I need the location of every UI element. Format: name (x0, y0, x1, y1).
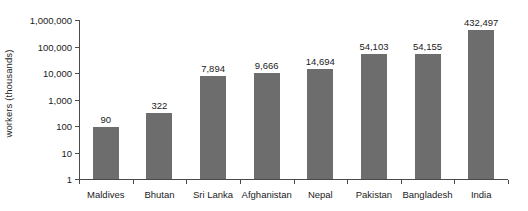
bar (361, 54, 387, 179)
y-axis-title: workers (thousands) (0, 0, 18, 186)
category-label: Maldives (87, 189, 125, 200)
category-label: Afghanistan (242, 189, 292, 200)
category-label: Sri Lanka (193, 189, 233, 200)
y-tick-label: 100 (56, 121, 72, 132)
y-tick-mark (75, 73, 79, 74)
bar-value-label: 54,103 (359, 41, 388, 52)
bar-value-label: 432,497 (464, 17, 498, 28)
plot-area: 1101001,00010,000100,0001,000,000 903227… (79, 20, 508, 180)
bar-value-label: 7,894 (201, 63, 225, 74)
bar (200, 76, 226, 179)
y-tick-label: 10,000 (43, 68, 72, 79)
y-tick-mark (75, 100, 79, 101)
bar-value-label: 9,666 (255, 60, 279, 71)
y-tick-label: 1,000,000 (30, 15, 72, 26)
bar (254, 73, 280, 179)
bar-value-label: 54,155 (413, 41, 442, 52)
x-tick-mark (347, 180, 348, 184)
bar-value-label: 90 (101, 114, 112, 125)
bar-chart: workers (thousands) 1101001,00010,000100… (0, 0, 528, 211)
y-tick-label: 10 (61, 147, 72, 158)
x-tick-mark (79, 180, 80, 184)
category-label: Nepal (308, 189, 333, 200)
bar-value-label: 14,694 (306, 56, 335, 67)
bar (146, 113, 172, 179)
y-tick-mark (75, 126, 79, 127)
category-label: Bhutan (144, 189, 174, 200)
x-tick-mark (186, 180, 187, 184)
x-tick-mark (133, 180, 134, 184)
x-tick-mark (240, 180, 241, 184)
bar-value-label: 322 (152, 100, 168, 111)
x-tick-mark (401, 180, 402, 184)
bar (468, 30, 494, 179)
y-tick-label: 1 (67, 174, 72, 185)
bar (307, 69, 333, 179)
x-tick-mark (508, 180, 509, 184)
y-axis-title-text: workers (thousands) (4, 49, 15, 137)
category-label: India (471, 189, 492, 200)
y-tick-mark (75, 47, 79, 48)
x-tick-mark (454, 180, 455, 184)
bar (415, 54, 441, 179)
y-tick-label: 1,000 (48, 94, 72, 105)
y-tick-label: 100,000 (38, 41, 72, 52)
y-tick-mark (75, 20, 79, 21)
y-tick-mark (75, 153, 79, 154)
category-label: Bangladesh (402, 189, 452, 200)
category-label: Pakistan (356, 189, 392, 200)
x-tick-mark (294, 180, 295, 184)
bar (93, 127, 119, 179)
y-axis-line (79, 20, 80, 180)
